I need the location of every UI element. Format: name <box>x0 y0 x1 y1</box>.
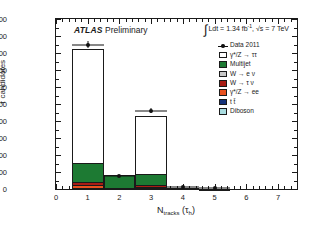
x-tick <box>177 19 178 22</box>
energy-text: , √s = 7 TeV <box>252 25 289 32</box>
x-axis-title-paren-open: (τ <box>180 205 189 215</box>
x-tick <box>284 19 285 22</box>
x-tick <box>234 186 235 189</box>
y-tick-label: 800 <box>0 117 7 126</box>
y-tick <box>56 62 59 63</box>
x-tick <box>183 19 184 24</box>
x-tick-label: 4 <box>173 193 193 202</box>
legend-label: t t̄ <box>230 99 235 106</box>
x-tick <box>259 186 260 189</box>
x-tick <box>151 19 152 24</box>
y-tick <box>56 79 59 80</box>
x-tick <box>272 186 273 189</box>
data-point <box>181 185 185 189</box>
x-tick-label: 6 <box>236 193 256 202</box>
x-tick <box>240 186 241 189</box>
legend-swatch <box>219 52 227 59</box>
legend-label: Multijet <box>230 61 251 68</box>
x-axis-title-sub: tracks <box>164 210 180 216</box>
x-tick <box>253 19 254 22</box>
y-tick <box>56 181 59 182</box>
y-tick-label: 200 <box>0 168 7 177</box>
y-tick <box>56 147 59 148</box>
legend-swatch <box>219 99 227 106</box>
x-axis-title-paren-close: ) <box>192 205 195 215</box>
data-point <box>117 174 121 178</box>
atlas-label: ATLAS Preliminary <box>74 25 148 35</box>
y-tick <box>292 155 297 156</box>
y-tick <box>56 113 59 114</box>
legend: Data 2011γ*/Z → ττMultijetW → e νW → τ ν… <box>219 41 293 116</box>
x-tick-label: 3 <box>141 193 161 202</box>
y-tick <box>294 164 297 165</box>
x-tick <box>234 19 235 22</box>
bar-outline <box>72 49 104 189</box>
legend-item: γ*/Z → ττ <box>219 50 293 59</box>
x-tick <box>253 186 254 189</box>
legend-label: γ*/Z → ee <box>230 89 259 96</box>
legend-swatch <box>219 80 227 87</box>
x-tick-label: 2 <box>109 193 129 202</box>
x-tick <box>265 19 266 22</box>
luminosity-text: Ldt = 1.34 fb <box>208 25 247 32</box>
legend-label: W → τ ν <box>230 80 254 87</box>
y-tick <box>294 62 297 63</box>
x-tick <box>157 19 158 22</box>
y-tick-label: 1200 <box>0 83 7 92</box>
y-tick <box>56 164 59 165</box>
x-tick <box>221 19 222 22</box>
y-tick-label: 400 <box>0 151 7 160</box>
x-tick <box>62 186 63 189</box>
x-tick <box>272 19 273 22</box>
x-tick-label: 5 <box>205 193 225 202</box>
y-tick <box>56 87 61 88</box>
integral-icon: ∫ <box>204 22 208 37</box>
y-tick <box>294 79 297 80</box>
y-tick <box>292 189 297 190</box>
y-tick-label: 0 <box>0 185 7 194</box>
x-tick <box>265 186 266 189</box>
x-tick <box>88 19 89 24</box>
legend-item: γ*/Z → ee <box>219 88 293 97</box>
x-tick <box>208 19 209 22</box>
legend-swatch <box>219 89 227 96</box>
y-tick <box>56 172 61 173</box>
x-tick-label: 1 <box>78 193 98 202</box>
legend-label: Data 2011 <box>230 42 260 49</box>
y-tick <box>292 172 297 173</box>
chart-canvas: τ candidates Ntracks (τh) ATLAS Prelimin… <box>0 0 310 232</box>
y-tick <box>56 70 61 71</box>
x-tick <box>113 19 114 22</box>
y-tick <box>56 138 61 139</box>
legend-label: W → e ν <box>230 71 255 78</box>
x-tick <box>202 19 203 22</box>
y-tick <box>294 147 297 148</box>
y-tick <box>294 45 297 46</box>
legend-marker-icon <box>219 42 227 49</box>
x-tick <box>240 19 241 22</box>
data-point <box>213 186 217 190</box>
y-tick <box>56 189 61 190</box>
bar-outline <box>135 116 167 189</box>
y-tick <box>56 155 61 156</box>
legend-item: Data 2011 <box>219 41 293 50</box>
y-tick <box>56 53 61 54</box>
x-tick <box>284 186 285 189</box>
y-tick <box>56 130 59 131</box>
y-tick-label: 1000 <box>0 100 7 109</box>
x-tick <box>138 19 139 22</box>
legend-item: W → τ ν <box>219 79 293 88</box>
x-tick-label: 0 <box>46 193 66 202</box>
x-tick <box>75 19 76 22</box>
legend-label: Diboson <box>230 108 254 115</box>
legend-label: γ*/Z → ττ <box>230 52 257 59</box>
y-tick <box>292 138 297 139</box>
y-tick <box>292 121 297 122</box>
x-tick <box>56 19 57 24</box>
y-tick-label: 1600 <box>0 49 7 58</box>
y-tick <box>56 104 61 105</box>
x-tick <box>164 19 165 22</box>
y-tick-label: 1800 <box>0 32 7 41</box>
x-tick <box>196 19 197 22</box>
x-tick <box>291 186 292 189</box>
